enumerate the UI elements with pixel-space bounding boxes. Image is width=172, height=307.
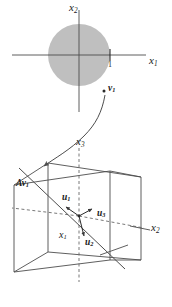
- vector-label-u2: u2: [85, 238, 93, 248]
- cube-origin-point: [78, 215, 81, 218]
- figure-graphics: [0, 0, 172, 307]
- u3-vector: [79, 209, 92, 216]
- axis-label-x1-top: x1: [149, 55, 158, 68]
- cube-connecting-edges: [14, 163, 141, 272]
- axis-label-x1-cube: x1: [59, 230, 67, 241]
- mapping-arrow-group: [44, 95, 105, 166]
- vector-label-u3: u3: [97, 209, 105, 219]
- domain-plane-group: [12, 10, 146, 112]
- x2-axis-solid-tail: [130, 226, 150, 230]
- v1-point: [103, 90, 106, 93]
- axis-label-x3: x3: [76, 136, 85, 149]
- mapping-arrow-curve: [44, 95, 105, 166]
- figure-container: x2 x1 1 v1 x3 x2 x1 Av1 u1 u2 u3: [0, 0, 172, 307]
- x2-axis-line-3d: [79, 216, 144, 228]
- codomain-cube-group: [12, 148, 150, 282]
- axis-label-x2-cube: x2: [151, 222, 160, 235]
- vector-label-u1: u1: [62, 193, 70, 203]
- axis-label-x2-top: x2: [69, 2, 78, 15]
- vector-label-v1: v1: [108, 84, 115, 94]
- tick-label-one: 1: [108, 61, 112, 69]
- vector-label-Av1: Av1: [16, 179, 29, 189]
